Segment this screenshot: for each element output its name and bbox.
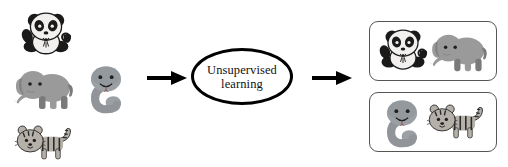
tiger-icon (14, 120, 76, 164)
panda-icon (20, 8, 72, 60)
arrow-process-to-output (312, 70, 352, 86)
snake-icon (380, 96, 424, 148)
tiger-icon (426, 99, 488, 143)
panda-icon (378, 25, 428, 75)
output-cluster-box-1 (369, 21, 497, 81)
unsupervised-learning-diagram: Unsupervised learning (0, 0, 508, 167)
input-animal-cluster (0, 0, 145, 167)
unsupervised-learning-label: Unsupervised learning (207, 63, 277, 91)
arrow-input-to-process (147, 70, 187, 86)
output-cluster-box-2 (369, 92, 497, 152)
snake-icon (84, 62, 128, 114)
elephant-icon (428, 27, 492, 75)
elephant-icon (12, 63, 78, 113)
unsupervised-learning-node: Unsupervised learning (191, 48, 293, 105)
